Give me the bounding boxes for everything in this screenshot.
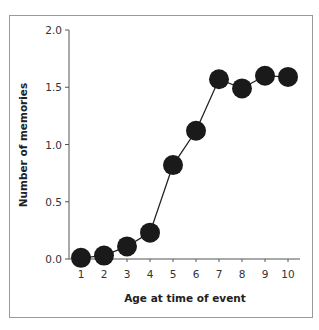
data-point-marker [255,66,275,86]
line-chart: 0.00.51.01.52.0 12345678910 Number of me… [0,0,319,330]
x-tick-label: 3 [124,268,131,280]
y-tick-label: 2.0 [45,24,62,36]
x-tick-label: 7 [216,268,223,280]
data-point-marker [278,67,298,87]
data-point-marker [117,236,137,256]
y-tick-label: 1.5 [45,81,62,93]
data-point-marker [232,78,252,98]
y-tick-label: 1.0 [45,139,62,151]
x-tick-label: 4 [147,268,154,280]
data-series [71,66,298,268]
data-point-marker [140,223,160,243]
data-point-marker [94,246,114,266]
x-tick-label: 5 [170,268,177,280]
y-axis: 0.00.51.01.52.0 [45,24,69,265]
x-tick-label: 8 [239,268,246,280]
y-axis-title: Number of memories [17,83,29,207]
x-tick-label: 1 [78,268,85,280]
x-tick-label: 10 [281,268,294,280]
y-tick-label: 0.0 [45,253,62,265]
x-tick-label: 2 [101,268,108,280]
x-axis-title: Age at time of event [124,292,246,304]
data-point-marker [186,121,206,141]
series-line [81,76,288,258]
data-point-marker [71,248,91,268]
x-tick-label: 9 [262,268,269,280]
data-point-marker [163,155,183,175]
data-point-marker [209,69,229,89]
x-tick-label: 6 [193,268,200,280]
y-tick-label: 0.5 [45,196,62,208]
